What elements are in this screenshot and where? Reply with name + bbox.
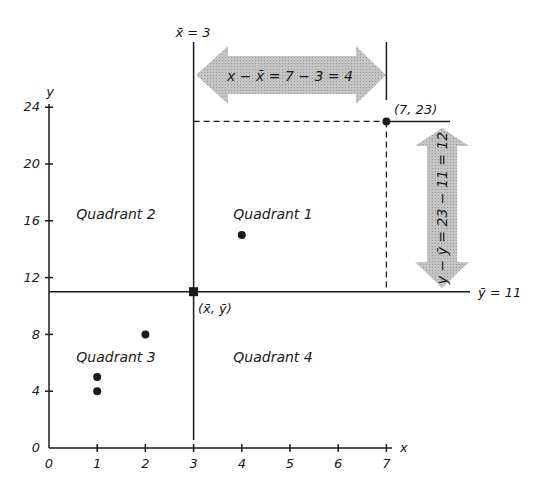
scatter-chart: x − x̄ = 7 − 3 = 4 y − ȳ = 23 − 11 = 12 … bbox=[0, 0, 554, 495]
x-tick-label: 7 bbox=[382, 456, 391, 471]
x-tick-label: 3 bbox=[189, 456, 197, 471]
y-tick-label: 24 bbox=[23, 99, 40, 114]
y-tick-labels: 0 4 8 12 16 20 24 bbox=[23, 99, 40, 455]
y-tick-label: 20 bbox=[23, 156, 40, 171]
x-tick-label: 1 bbox=[93, 456, 101, 471]
data-point bbox=[141, 330, 149, 338]
y-tick-label: 0 bbox=[32, 440, 40, 455]
x-axis-label: x bbox=[399, 440, 408, 455]
x-tick-label: 5 bbox=[286, 456, 294, 471]
x-tick-labels: 0 1 2 3 4 5 6 7 bbox=[45, 456, 391, 471]
x-tick-label: 2 bbox=[141, 456, 149, 471]
y-tick-label: 8 bbox=[32, 327, 40, 342]
mean-point-marker bbox=[189, 287, 198, 296]
y-tick-label: 4 bbox=[32, 383, 40, 398]
x-tick-label: 4 bbox=[238, 456, 246, 471]
data-point bbox=[93, 373, 101, 381]
x-deviation-label: x − x̄ = 7 − 3 = 4 bbox=[226, 68, 353, 84]
quadrant-4-label: Quadrant 4 bbox=[233, 349, 312, 365]
axes bbox=[45, 104, 392, 452]
y-deviation-label: y − ȳ = 23 − 11 = 12 bbox=[434, 132, 450, 286]
mean-x-label: x̄ = 3 bbox=[174, 25, 210, 40]
x-deviation-arrow: x − x̄ = 7 − 3 = 4 bbox=[196, 46, 386, 104]
mean-y-label: ȳ = 11 bbox=[477, 285, 521, 300]
y-tick-label: 12 bbox=[23, 270, 40, 285]
mean-point-label: (x̄, ȳ) bbox=[198, 301, 232, 316]
data-point bbox=[238, 231, 246, 239]
y-tick-label: 16 bbox=[23, 213, 40, 228]
highlight-point-label: (7, 23) bbox=[394, 102, 437, 117]
y-axis-label: y bbox=[45, 84, 54, 99]
data-point bbox=[93, 387, 101, 395]
y-deviation-arrow: y − ȳ = 23 − 11 = 12 bbox=[415, 128, 469, 288]
quadrant-3-label: Quadrant 3 bbox=[76, 349, 155, 365]
x-tick-label: 0 bbox=[45, 456, 53, 471]
quadrant-1-label: Quadrant 1 bbox=[233, 206, 312, 222]
x-tick-label: 6 bbox=[334, 456, 342, 471]
quadrant-2-label: Quadrant 2 bbox=[76, 206, 156, 222]
data-point-highlight bbox=[382, 117, 390, 125]
